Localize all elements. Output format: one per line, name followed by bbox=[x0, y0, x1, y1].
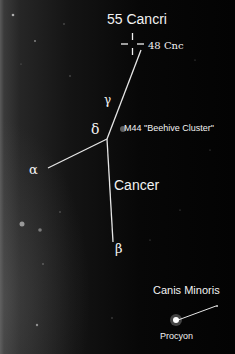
label-delta: δ bbox=[91, 122, 99, 136]
label-gamma: γ bbox=[104, 94, 111, 106]
line-delta-alpha bbox=[48, 139, 107, 168]
label-m44: M44 "Beehive Cluster" bbox=[124, 124, 214, 133]
star-glow bbox=[20, 222, 25, 227]
line-delta-beta bbox=[107, 139, 113, 242]
label-beta: β bbox=[115, 242, 123, 255]
line-canis-minoris bbox=[178, 306, 216, 320]
label-canis-minoris: Canis Minoris bbox=[153, 285, 220, 296]
gomeisa-star bbox=[216, 305, 218, 307]
label-55-cancri: 55 Cancri bbox=[107, 12, 167, 26]
star-glow bbox=[38, 228, 42, 232]
label-alpha: α bbox=[29, 163, 38, 176]
label-procyon: Procyon bbox=[160, 332, 193, 341]
procyon-star bbox=[173, 317, 179, 323]
star-chart: 55 Cancri 48 Cnc γ δ M44 "Beehive Cluste… bbox=[0, 0, 235, 354]
label-cancer: Cancer bbox=[114, 178, 159, 192]
label-48-cnc: 48 Cnc bbox=[148, 41, 184, 51]
field-stars bbox=[12, 14, 211, 326]
